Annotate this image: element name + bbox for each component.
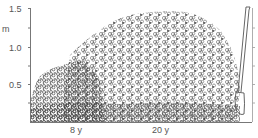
- y-tick-1-0: 1.0: [9, 44, 22, 53]
- vegetation-cross-section: [0, 0, 258, 138]
- region-label-20y: 20 y: [152, 126, 169, 135]
- y-tick-1-5: 1.5: [9, 5, 22, 14]
- y-tick-0-5: 0.5: [9, 81, 22, 90]
- y-unit-label: m: [2, 25, 10, 34]
- region-label-8y: 8 y: [70, 126, 82, 135]
